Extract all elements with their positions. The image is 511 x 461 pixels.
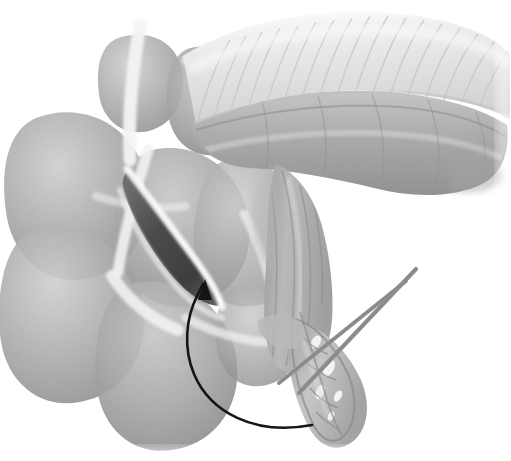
anatomical-figure: Cecum, terminal ileum and appendix with … [0, 0, 511, 461]
illustration-canvas [0, 0, 511, 461]
